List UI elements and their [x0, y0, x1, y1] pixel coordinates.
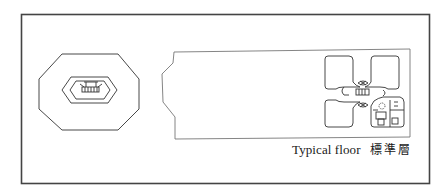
site-outline — [162, 49, 410, 139]
floor-plan-diagram — [0, 0, 447, 190]
caption-english: Typical floor — [292, 142, 361, 157]
caption-chinese: 標準層 — [370, 143, 412, 157]
octagon-tower-plan — [39, 54, 139, 130]
typical-floor-plan — [325, 56, 404, 127]
figure-caption: Typical floor標準層 — [292, 140, 412, 158]
